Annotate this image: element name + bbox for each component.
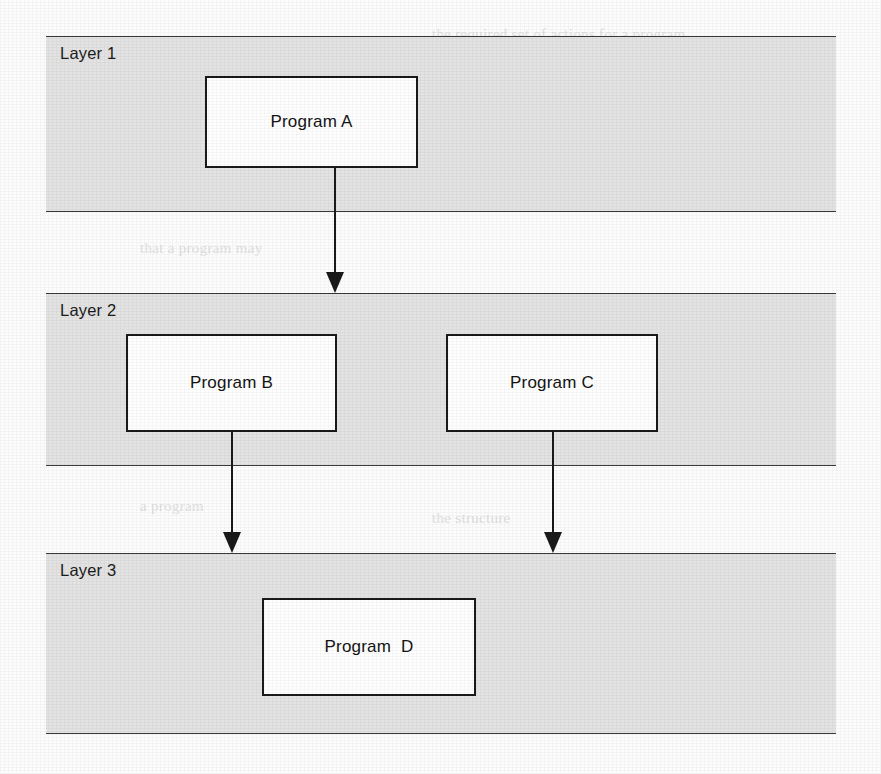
- program-box-d-label: Program D: [325, 637, 414, 657]
- program-box-d[interactable]: Program D: [262, 598, 476, 696]
- arrow-head-icon: [223, 532, 241, 553]
- layer-band-2-label: Layer 2: [60, 301, 116, 320]
- diagram-canvas: the required set of actions for a progra…: [0, 0, 881, 774]
- layer-band-1-label: Layer 1: [60, 44, 116, 63]
- showthrough-text: a program: [140, 498, 204, 515]
- program-box-b[interactable]: Program B: [126, 334, 337, 432]
- arrow-head-icon: [326, 272, 344, 293]
- arrow-program-b-to-layer-3: [232, 432, 233, 553]
- arrow-program-c-to-layer-3: [553, 432, 554, 553]
- program-box-c[interactable]: Program C: [446, 334, 658, 432]
- arrow-shaft: [334, 168, 337, 272]
- program-box-a-label: Program A: [270, 112, 352, 132]
- program-box-c-label: Program C: [510, 373, 594, 393]
- arrow-program-a-to-layer-2: [335, 168, 336, 293]
- program-box-b-label: Program B: [190, 373, 273, 393]
- showthrough-text: that a program may: [140, 240, 262, 257]
- showthrough-text: the structure: [432, 510, 510, 527]
- arrow-shaft: [231, 432, 234, 532]
- layer-band-1[interactable]: Layer 1: [46, 36, 836, 212]
- arrow-shaft: [552, 432, 555, 532]
- layer-band-3-label: Layer 3: [60, 561, 116, 580]
- arrow-head-icon: [544, 532, 562, 553]
- program-box-a[interactable]: Program A: [205, 76, 418, 168]
